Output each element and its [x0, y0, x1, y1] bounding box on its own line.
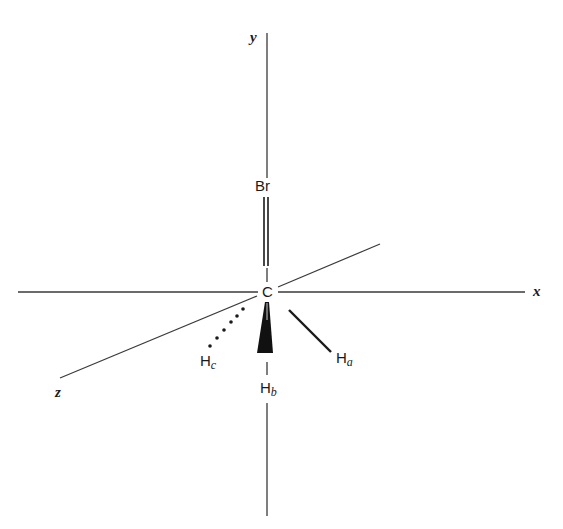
c-br-bond	[264, 197, 268, 266]
c-hb-wedge-bond	[257, 302, 273, 353]
bromine-atom-label: Br	[255, 177, 270, 194]
y-axis-label: y	[248, 29, 257, 45]
x-axis-label: x	[532, 283, 541, 299]
c-ha-bond	[289, 310, 331, 352]
hc-atom-label: Hc	[200, 352, 217, 372]
z-axis	[60, 244, 380, 378]
carbon-atom-label: C	[262, 283, 273, 300]
molecule-axes-diagram: y x z Br C Ha Hb Hc	[0, 0, 563, 529]
z-axis-label: z	[54, 384, 61, 400]
c-hc-dotted-bond	[208, 307, 245, 348]
ha-atom-label: Ha	[336, 349, 353, 369]
hb-atom-label: Hb	[260, 379, 277, 399]
